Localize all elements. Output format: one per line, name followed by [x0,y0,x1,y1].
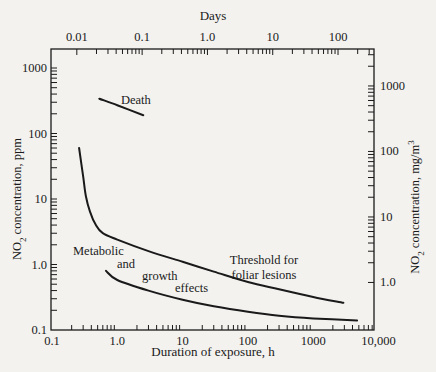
x-tick-label: 1000 [301,334,326,348]
label-death: Death [121,93,152,107]
x-tick-label: 1.0 [109,334,125,348]
y-left-tick-label: 100 [28,127,47,141]
y-left-tick-label: 1.0 [31,258,47,272]
x2-tick-label: 0.1 [134,30,150,44]
y-left-tick-label: 1000 [22,61,47,75]
y-right-tick-label: 1.0 [380,275,396,289]
y-left-tick-label: 0.1 [31,323,47,337]
no2-exposure-chart: 0.11.010100100010,0000.010.11.0101000.11… [0,0,436,372]
left-axis-title: NO2 concentration, ppm [10,138,28,260]
x2-tick-label: 10 [266,30,279,44]
top-axis-title: Days [200,8,227,23]
x2-tick-label: 0.01 [66,30,88,44]
x2-tick-label: 100 [329,30,348,44]
data-curves [79,99,357,321]
label-effects: effects [175,281,208,295]
y-right-tick-label: 1000 [380,79,405,93]
y-right-tick-label: 10 [380,210,393,224]
axis-tick-labels: 0.11.010100100010,0000.010.11.0101000.11… [22,30,405,348]
plot-border [51,49,374,330]
label-and: and [117,257,136,271]
right-axis-title: NO2 concentration, mg/m3 [406,140,426,274]
y-left-tick-label: 10 [35,192,48,206]
label-threshold-line2: foliar lesions [232,268,297,282]
x2-tick-label: 1.0 [200,30,216,44]
y-right-tick-label: 100 [380,144,399,158]
bottom-axis-title: Duration of exposure, h [151,344,275,359]
label-growth: growth [142,269,178,283]
axis-ticks [51,49,374,330]
x-tick-label: 10,000 [361,334,395,348]
plot-frame [51,49,374,330]
label-threshold-line1: Threshold for [230,253,299,267]
label-metabolic: Metabolic [73,244,124,258]
